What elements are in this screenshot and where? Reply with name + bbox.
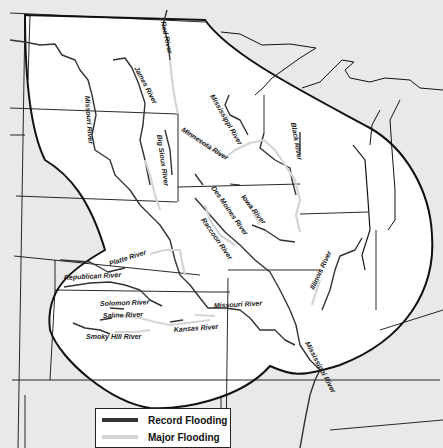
river-label: Saline River [103,311,145,319]
map-canvas: Red RiverJames RiverMissouri RiverMissis… [0,0,443,448]
legend-item-major: Major Flooding [102,430,220,444]
flood-map: Red RiverJames RiverMissouri RiverMissis… [0,0,443,448]
river-label: Smoky Hill River [86,333,143,341]
legend-label-record: Record Flooding [148,415,227,426]
legend-item-record: Record Flooding [102,413,227,427]
major-flooding-swatch [102,435,138,439]
missouri-lower-major [195,315,215,316]
legend: Record Flooding Major Flooding [95,408,231,448]
solomon-river [110,308,124,309]
record-flooding-swatch [102,418,138,422]
legend-label-major: Major Flooding [148,432,220,443]
